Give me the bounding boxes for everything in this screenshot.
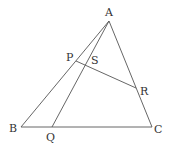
triangle-diagram: A B C P Q R S: [0, 0, 173, 150]
label-R: R: [140, 85, 149, 98]
label-C: C: [154, 123, 162, 136]
segment-AC: [109, 21, 152, 127]
segment-AQ: [52, 21, 109, 127]
label-A: A: [104, 6, 114, 19]
label-B: B: [9, 122, 17, 135]
label-P: P: [66, 51, 74, 64]
segment-AB: [21, 21, 109, 127]
label-S: S: [91, 54, 99, 67]
label-Q: Q: [46, 131, 55, 144]
